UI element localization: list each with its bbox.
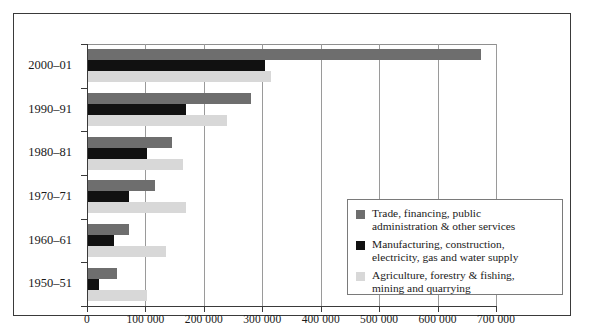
x-axis-tick-label: 200 000 bbox=[185, 313, 223, 325]
y-axis-category-label: 1980–81 bbox=[28, 145, 72, 160]
bar bbox=[87, 246, 166, 257]
x-axis-tick bbox=[321, 306, 322, 312]
bar bbox=[87, 224, 129, 235]
bar bbox=[87, 104, 186, 115]
legend-swatch-manufacturing bbox=[356, 241, 365, 250]
y-axis-category-label: 2000–01 bbox=[28, 58, 72, 73]
bar-group bbox=[87, 49, 496, 82]
x-axis-tick bbox=[438, 306, 439, 312]
bar-group bbox=[87, 137, 496, 170]
bar bbox=[87, 290, 147, 301]
bar bbox=[87, 202, 186, 213]
bar bbox=[87, 180, 155, 191]
bar bbox=[87, 71, 271, 82]
bar bbox=[87, 148, 147, 159]
bar bbox=[87, 60, 265, 71]
bar bbox=[87, 279, 99, 290]
legend-label-line1: Manufacturing, construction, bbox=[372, 238, 505, 250]
y-axis-category-label: 1950–51 bbox=[28, 276, 72, 291]
bar bbox=[87, 191, 129, 202]
y-axis-labels: 2000–011990–911980–811970–711960–611950–… bbox=[14, 44, 80, 306]
y-axis-tick bbox=[81, 44, 88, 45]
y-axis-category-label: 1970–71 bbox=[28, 189, 72, 204]
legend-label-manufacturing: Manufacturing, construction, electricity… bbox=[372, 238, 518, 263]
y-axis-tick bbox=[81, 88, 88, 89]
legend-item: Manufacturing, construction, electricity… bbox=[356, 238, 554, 263]
bar bbox=[87, 235, 114, 246]
x-axis-tick bbox=[204, 306, 205, 312]
legend-label-line1: Agriculture, forestry & fishing, bbox=[372, 269, 515, 281]
bar-group bbox=[87, 93, 496, 126]
legend-label-line2: mining and quarrying bbox=[372, 282, 471, 294]
plot-top-border bbox=[87, 44, 496, 45]
x-axis-tick-label: 300 000 bbox=[243, 313, 281, 325]
x-axis-tick-label: 500 000 bbox=[360, 313, 398, 325]
legend-label-agriculture: Agriculture, forestry & fishing, mining … bbox=[372, 269, 515, 294]
legend-label-trade: Trade, financing, public administration … bbox=[372, 207, 515, 232]
x-axis-tick-label: 700 000 bbox=[477, 313, 515, 325]
bar bbox=[87, 93, 251, 104]
legend-item: Agriculture, forestry & fishing, mining … bbox=[356, 269, 554, 294]
legend-label-line1: Trade, financing, public bbox=[372, 207, 481, 219]
chart-figure: 2000–011990–911980–811970–711960–611950–… bbox=[0, 0, 591, 335]
x-axis-tick-label: 0 bbox=[84, 313, 90, 325]
y-axis-category-label: 1960–61 bbox=[28, 233, 72, 248]
x-axis-tick-label: 100 000 bbox=[126, 313, 164, 325]
bar bbox=[87, 268, 117, 279]
x-axis-tick bbox=[379, 306, 380, 312]
y-axis-tick bbox=[81, 262, 88, 263]
bar bbox=[87, 159, 183, 170]
x-axis-tick bbox=[496, 306, 497, 312]
x-axis-line bbox=[87, 306, 496, 307]
y-axis-tick bbox=[81, 219, 88, 220]
x-axis-tick bbox=[262, 306, 263, 312]
legend-label-line2: electricity, gas and water supply bbox=[372, 251, 518, 263]
x-axis-tick-label: 400 000 bbox=[302, 313, 340, 325]
y-axis-tick bbox=[81, 175, 88, 176]
chart-outer-frame: 2000–011990–911980–811970–711960–611950–… bbox=[13, 13, 571, 316]
legend-swatch-trade bbox=[356, 210, 365, 219]
x-axis-tick-label: 600 000 bbox=[419, 313, 457, 325]
legend-item: Trade, financing, public administration … bbox=[356, 207, 554, 232]
legend-label-line2: administration & other services bbox=[372, 220, 515, 232]
bar bbox=[87, 49, 481, 60]
legend-swatch-agriculture bbox=[356, 272, 365, 281]
bar bbox=[87, 115, 227, 126]
chart-legend: Trade, financing, public administration … bbox=[347, 199, 563, 295]
x-axis-tick bbox=[87, 306, 88, 312]
y-axis-category-label: 1990–91 bbox=[28, 102, 72, 117]
x-axis-tick bbox=[145, 306, 146, 312]
bar bbox=[87, 137, 172, 148]
y-axis-tick bbox=[81, 131, 88, 132]
